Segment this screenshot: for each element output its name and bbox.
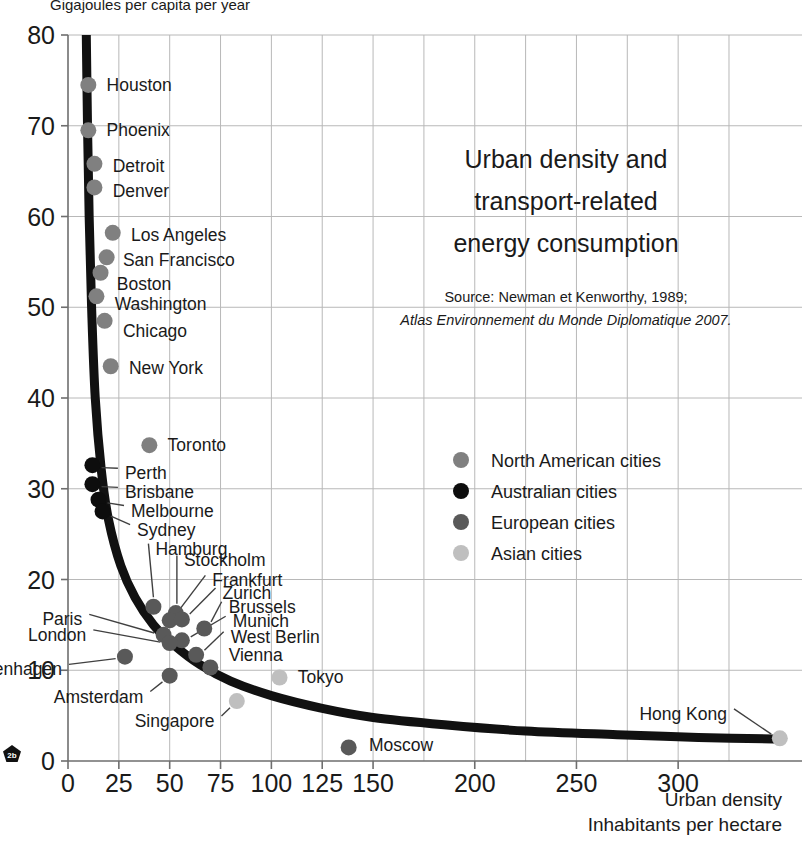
y-axis-tick-label: 80 [27, 21, 55, 49]
x-axis-tick-label: 25 [105, 769, 133, 797]
x-axis-tick-label: 200 [454, 769, 496, 797]
data-point-tokyo [272, 670, 288, 686]
chart-source-line: Atlas Environnement du Monde Diplomatiqu… [399, 312, 731, 328]
x-axis-tick-label: 250 [556, 769, 598, 797]
x-axis-tick-label: 100 [251, 769, 293, 797]
data-point-perth [84, 457, 100, 473]
city-label-sydney: Sydney [137, 520, 196, 540]
chart-title-line: transport-related [474, 187, 657, 215]
data-point-london [162, 635, 178, 651]
city-label-amsterdam: Amsterdam [54, 687, 143, 707]
x-axis-caption-line: Inhabitants per hectare [588, 814, 782, 835]
city-label-singapore: Singapore [135, 711, 215, 731]
legend-swatch [453, 483, 469, 499]
city-labels: HoustonPhoenixDetroitDenverLos AngelesSa… [0, 75, 727, 755]
legend-swatch [453, 545, 469, 561]
label-leader-line [734, 709, 771, 734]
figure-canvas: 01020304050607080 0255075100125150200250… [0, 0, 806, 854]
city-label-phoenix: Phoenix [107, 120, 170, 140]
axis-lines [61, 35, 802, 769]
y-axis-tick-label: 0 [41, 747, 55, 775]
data-point-new-york [103, 358, 119, 374]
data-point-washington [88, 288, 104, 304]
y-axis-tick-label: 40 [27, 384, 55, 412]
city-label-tokyo: Tokyo [298, 667, 344, 687]
data-point-brisbane [84, 476, 100, 492]
y-axis-tick-label: 70 [27, 112, 55, 140]
chart-legend: North American citiesAustralian citiesEu… [453, 451, 661, 564]
city-label-brisbane: Brisbane [125, 482, 194, 502]
label-leader-line [150, 682, 162, 692]
y-axis-tick-label: 50 [27, 293, 55, 321]
label-leader-line [148, 544, 153, 598]
city-label-new-york: New York [129, 358, 203, 378]
y-axis-tick-label: 60 [27, 203, 55, 231]
data-point-phoenix [80, 122, 96, 138]
x-axis-tick-label: 50 [156, 769, 184, 797]
y-axis-caption: Gigajoules per capita per year [50, 0, 250, 13]
data-point-amsterdam [162, 668, 178, 684]
data-point-houston [80, 77, 96, 93]
urban-density-scatter-chart: 01020304050607080 0255075100125150200250… [0, 0, 806, 854]
x-axis-caption: Urban densityInhabitants per hectare [588, 789, 783, 835]
city-label-toronto: Toronto [168, 435, 226, 455]
data-point-vienna [202, 660, 218, 676]
data-point-singapore [229, 693, 245, 709]
city-label-denver: Denver [113, 181, 170, 201]
data-point-moscow [341, 739, 357, 755]
data-point-toronto [141, 437, 157, 453]
x-axis-tick-label: 0 [61, 769, 75, 797]
data-point-chicago [97, 313, 113, 329]
data-point-hong-kong [772, 730, 788, 746]
legend-label: Asian cities [491, 544, 582, 564]
legend-label: European cities [491, 513, 615, 533]
x-axis-tick-labels: 0255075100125150200250300 [61, 769, 699, 797]
label-leader-line [102, 487, 118, 488]
legend-swatch [453, 514, 469, 530]
city-label-copenhagen: Copenhagen [0, 659, 62, 679]
city-label-chicago: Chicago [123, 321, 187, 341]
legend-label: North American cities [491, 451, 661, 471]
data-point-detroit [86, 156, 102, 172]
data-point-san-francisco [99, 249, 115, 265]
x-axis-tick-label: 75 [207, 769, 235, 797]
y-axis-tick-label: 30 [27, 475, 55, 503]
badge-label: 2b [7, 751, 16, 760]
chart-title: Urban density andtransport-relatedenergy… [453, 145, 678, 257]
data-point-copenhagen [117, 649, 133, 665]
x-axis-tick-label: 125 [301, 769, 343, 797]
city-label-detroit: Detroit [113, 156, 165, 176]
city-label-houston: Houston [107, 75, 172, 95]
data-point-zurich [174, 611, 190, 627]
city-label-moscow: Moscow [369, 735, 434, 755]
label-leader-line [69, 659, 116, 665]
city-label-london: London [28, 625, 86, 645]
city-label-vienna: Vienna [229, 645, 283, 665]
data-point-los-angeles [105, 225, 121, 241]
chart-source-line: Source: Newman et Kenworthy, 1989; [444, 289, 687, 305]
label-leader-line [102, 468, 118, 469]
city-label-hong-kong: Hong Kong [639, 704, 727, 724]
chart-title-line: Urban density and [465, 145, 668, 173]
y-axis-tick-label: 20 [27, 566, 55, 594]
chart-title-line: energy consumption [453, 229, 678, 257]
trend-curve [86, 35, 784, 739]
label-leader-line [221, 708, 230, 716]
city-label-west-berlin: West Berlin [231, 627, 320, 647]
data-point-hamburg [145, 599, 161, 615]
legend-label: Australian cities [491, 482, 617, 502]
data-point-west-berlin [188, 647, 204, 663]
data-point-denver [86, 179, 102, 195]
data-point-sydney [95, 503, 111, 519]
data-point-brussels [196, 621, 212, 637]
city-label-melbourne: Melbourne [131, 501, 214, 521]
x-axis-tick-label: 150 [352, 769, 394, 797]
city-label-perth: Perth [125, 463, 167, 483]
legend-swatch [453, 452, 469, 468]
city-label-stockholm: Stockholm [184, 550, 266, 570]
trend-curve-path [86, 35, 784, 739]
city-label-san-francisco: San Francisco [123, 250, 235, 270]
city-label-washington: Washington [115, 294, 207, 314]
chart-source-note: Source: Newman et Kenworthy, 1989;Atlas … [399, 289, 731, 328]
city-label-boston: Boston [117, 274, 171, 294]
